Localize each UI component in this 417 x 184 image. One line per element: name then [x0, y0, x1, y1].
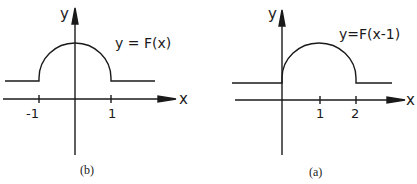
- panel-a-curve: [232, 43, 392, 83]
- panel-a-x-label: x: [406, 93, 415, 108]
- panel-b-graph: [3, 8, 176, 155]
- panel-a-tick-label: 2: [351, 107, 359, 120]
- panel-a-caption: (a): [309, 166, 322, 178]
- panel-b-x-arrow-icon: [158, 96, 176, 102]
- panel-a-function-label: y=F(x-1): [339, 27, 400, 41]
- panel-a-tick-label: 1: [316, 107, 324, 120]
- panel-a-y-arrow-icon: [279, 10, 285, 26]
- panel-b-y-arrow-icon: [72, 8, 78, 24]
- panel-b-caption: (b): [80, 164, 94, 176]
- panel-b-tick-label: 1: [108, 107, 116, 120]
- panel-b-y-label: y: [60, 7, 69, 22]
- panel-a-x-arrow-icon: [387, 97, 405, 103]
- panel-a-y-label: y: [268, 7, 277, 22]
- panel-b-function-label: y = F(x): [115, 36, 171, 50]
- diagram-canvas: y y = F(x) x -1 1 (b) y y=F(x-1) x 1 2 (…: [0, 0, 417, 184]
- panel-b-tick-label: -1: [26, 107, 39, 120]
- panel-b-x-label: x: [179, 92, 188, 107]
